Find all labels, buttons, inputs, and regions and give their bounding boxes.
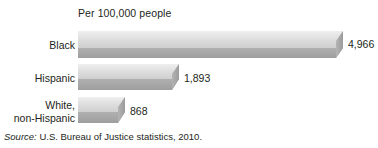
bar-white-non-hispanic-shape <box>78 96 134 126</box>
chart-title: Per 100,000 people <box>78 7 171 20</box>
source-text: U.S. Bureau of Justice statistics, 2010. <box>39 131 202 142</box>
bar-hispanic-shape <box>78 63 188 93</box>
bar-hispanic <box>78 63 188 93</box>
bar-black <box>78 28 350 60</box>
value-label-black: 4,966 <box>348 38 374 50</box>
bar-chart: Per 100,000 people Black <box>0 0 378 148</box>
source-prefix: Source: <box>4 131 37 142</box>
category-label-hispanic: Hispanic <box>0 72 75 85</box>
bar-black-shape <box>78 28 350 60</box>
value-label-hispanic: 1,893 <box>184 72 210 84</box>
category-label-black: Black <box>0 39 75 52</box>
category-label-white-non-hispanic: White, non-Hispanic <box>0 99 75 124</box>
source-note: Source: U.S. Bureau of Justice statistic… <box>4 131 202 143</box>
bar-white-non-hispanic <box>78 96 134 126</box>
value-label-white-non-hispanic: 868 <box>130 105 148 117</box>
